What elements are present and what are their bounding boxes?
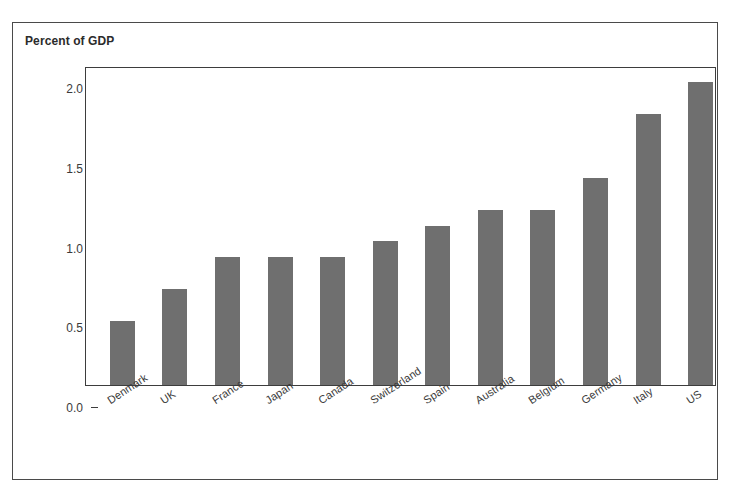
- x-tick-label: Italy: [631, 385, 655, 406]
- scan-top-cut-strip: [0, 0, 740, 12]
- y-axis-ticks: [25, 45, 83, 487]
- figure-frame: Percent of GDP 0.00.51.01.52.0 DenmarkUK…: [12, 22, 718, 480]
- bar-japan: [268, 257, 293, 385]
- bar-spain: [425, 226, 450, 386]
- bar-switzerland: [373, 241, 398, 385]
- x-tick-label: US: [684, 388, 704, 406]
- y-tick-label: 0.0: [66, 401, 83, 415]
- y-axis-labels: 0.00.51.01.52.0: [25, 45, 83, 487]
- bar-denmark: [110, 321, 135, 385]
- bar-canada: [320, 257, 345, 385]
- bar-australia: [478, 210, 503, 385]
- y-tick-label: 1.5: [66, 162, 83, 176]
- x-tick-label: UK: [158, 388, 178, 406]
- y-tick-label: 2.0: [66, 82, 83, 96]
- y-tick-label: 0.5: [66, 321, 83, 335]
- bar-belgium: [530, 210, 555, 385]
- plot-area: [85, 67, 716, 386]
- y-tick-label: 1.0: [66, 242, 83, 256]
- bar-germany: [583, 178, 608, 385]
- x-axis-labels: DenmarkUKFranceJapanCanadaSwitzerlandSpa…: [85, 386, 716, 481]
- bar-uk: [162, 289, 187, 385]
- bar-france: [215, 257, 240, 385]
- bar-us: [688, 82, 713, 385]
- bar-italy: [636, 114, 661, 385]
